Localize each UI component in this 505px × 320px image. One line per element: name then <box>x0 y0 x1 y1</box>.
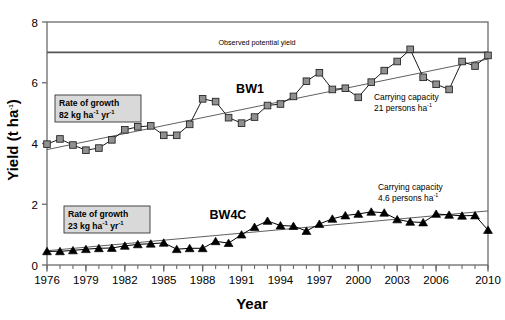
series-label-bw4c: BW4C <box>210 208 247 222</box>
rate-bw4c-value: 23 kg ha <box>68 221 103 231</box>
chart-figure: 02468 1976197919821985198819911994199720… <box>0 0 505 320</box>
data-point-marker <box>446 86 453 93</box>
data-point-marker <box>251 114 258 121</box>
capacity-bw1-line1: Carrying capacity <box>374 92 440 102</box>
data-point-marker <box>459 58 466 65</box>
data-point-marker <box>96 145 103 152</box>
rate-bw4c-line2: 23 kg ha-1 yr-1 <box>68 220 124 231</box>
y-axis-title-main: Yield (t ha <box>4 109 21 181</box>
y-tick-label: 8 <box>32 17 38 29</box>
capacity-bw1-sup: -1 <box>427 102 432 108</box>
data-point-marker <box>122 127 129 134</box>
data-point-marker <box>329 86 336 93</box>
x-tick-label: 1997 <box>307 274 333 286</box>
capacity-bw4c-value: 4.6 persons ha <box>378 193 434 203</box>
y-axis-title: Yield (t ha-1) <box>4 99 21 181</box>
data-point-marker <box>160 132 167 139</box>
data-point-marker <box>433 81 440 88</box>
data-point-marker <box>134 123 141 130</box>
data-point-marker <box>264 102 271 109</box>
data-point-marker <box>355 94 362 101</box>
rate-bw1-sup2: -1 <box>109 109 115 115</box>
data-point-marker <box>277 101 284 108</box>
data-point-marker <box>407 46 414 53</box>
svg-text:Yield (t ha-1): Yield (t ha-1) <box>4 99 21 181</box>
rate-bw1-line2: 82 kg ha-1 yr-1 <box>59 109 115 120</box>
data-point-marker <box>381 67 388 74</box>
x-tick-label: 1979 <box>73 274 99 286</box>
observed-potential-yield-label: Observed potential yield <box>218 38 295 47</box>
data-point-marker <box>394 58 401 65</box>
data-point-marker <box>199 96 206 103</box>
capacity-bw4c-line2: 4.6 persons ha-1 <box>378 192 438 203</box>
data-point-marker <box>238 120 245 127</box>
x-tick-label: 2010 <box>475 274 501 286</box>
data-point-marker <box>472 63 479 70</box>
data-point-marker <box>70 142 77 149</box>
data-point-marker <box>420 74 427 81</box>
data-point-marker <box>290 93 297 100</box>
x-tick-label: 1994 <box>268 274 294 286</box>
data-point-marker <box>186 121 193 128</box>
x-tick-label: 2000 <box>345 274 371 286</box>
y-tick-label: 6 <box>32 77 38 89</box>
data-point-marker <box>44 141 51 148</box>
annotation-rate-of-growth-bw1: Rate of growth 82 kg ha-1 yr-1 <box>55 95 141 122</box>
capacity-bw1-line2: 21 persons ha-1 <box>374 102 432 113</box>
rate-bw4c-line1: Rate of growth <box>68 209 128 219</box>
yield-line-chart: 02468 1976197919821985198819911994199720… <box>0 0 505 320</box>
data-point-marker <box>316 69 323 76</box>
x-tick-label: 1976 <box>34 274 60 286</box>
chart-background <box>0 0 505 320</box>
x-tick-label: 1991 <box>229 274 255 286</box>
annotation-rate-of-growth-bw4c: Rate of growth 23 kg ha-1 yr-1 <box>64 206 150 233</box>
data-point-marker <box>485 52 492 59</box>
series-label-bw1: BW1 <box>236 82 264 96</box>
x-axis-title: Year <box>236 295 268 312</box>
capacity-bw4c-sup: -1 <box>433 192 438 198</box>
x-tick-label: 2006 <box>423 274 449 286</box>
data-point-marker <box>173 132 180 139</box>
data-point-marker <box>225 114 232 121</box>
data-point-marker <box>147 123 154 130</box>
data-point-marker <box>303 78 310 85</box>
y-tick-label: 4 <box>32 138 39 150</box>
rate-bw4c-sup2: -1 <box>118 220 124 226</box>
x-tick-label: 1982 <box>112 274 138 286</box>
x-tick-label: 1988 <box>190 274 216 286</box>
x-tick-label: 1985 <box>151 274 177 286</box>
y-axis-title-close: ) <box>4 99 21 104</box>
data-point-marker <box>212 98 219 105</box>
rate-bw1-value: 82 kg ha <box>59 110 94 120</box>
rate-bw4c-unit: yr <box>108 221 119 231</box>
data-point-marker <box>109 137 116 144</box>
data-point-marker <box>342 85 349 92</box>
data-point-marker <box>57 136 64 143</box>
rate-bw1-line1: Rate of growth <box>59 98 119 108</box>
y-tick-label: 0 <box>32 260 38 272</box>
x-tick-label: 2003 <box>384 274 410 286</box>
data-point-marker <box>368 79 375 86</box>
capacity-bw4c-line1: Carrying capacity <box>378 182 444 192</box>
rate-bw1-unit: yr <box>99 110 110 120</box>
data-point-marker <box>83 147 90 154</box>
capacity-bw1-value: 21 persons ha <box>374 103 427 113</box>
y-tick-label: 2 <box>32 199 38 211</box>
